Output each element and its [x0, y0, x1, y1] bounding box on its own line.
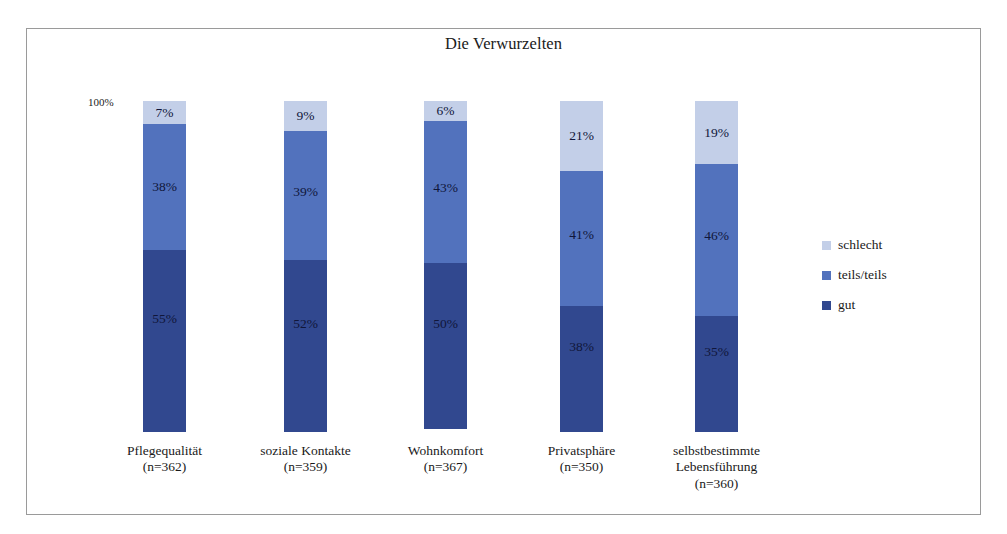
legend-swatch-icon: [822, 301, 831, 310]
legend-item[interactable]: gut: [822, 290, 952, 320]
legend-item-label: gut: [838, 297, 855, 313]
legend-item-label: teils/teils: [838, 267, 887, 283]
chart-legend: schlechtteils/teilsgut: [822, 230, 952, 320]
scan-artifact-text: [62, 0, 302, 6]
chart-figure: Die Verwurzelten 100% 7%38%55%Pflegequal…: [0, 0, 1007, 534]
legend-item[interactable]: schlecht: [822, 230, 952, 260]
chart-title: Die Verwurzelten: [26, 34, 981, 54]
y-axis-max-label: 100%: [88, 96, 114, 108]
legend-swatch-icon: [822, 241, 831, 250]
legend-swatch-icon: [822, 271, 831, 280]
legend-item-label: schlecht: [838, 237, 882, 253]
legend-item[interactable]: teils/teils: [822, 260, 952, 290]
